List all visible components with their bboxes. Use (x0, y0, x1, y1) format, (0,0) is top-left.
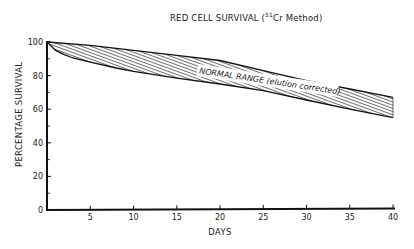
x-tick-label: 30 (301, 213, 311, 222)
x-tick-label: 20 (215, 213, 225, 222)
normal-range-band (47, 42, 393, 118)
y-tick-label: 40 (33, 139, 43, 148)
x-tick-label: 25 (258, 213, 268, 222)
y-tick-label: 0 (38, 206, 43, 215)
x-tick-label: 15 (172, 213, 182, 222)
x-tick-label: 5 (88, 213, 93, 222)
x-tick-label: 40 (388, 213, 398, 222)
y-tick-label: 20 (33, 172, 43, 181)
y-tick-label: 100 (28, 38, 43, 47)
x-axis-title: DAYS (208, 227, 231, 237)
normal-range-fill (47, 42, 393, 118)
x-tick-label: 35 (345, 213, 355, 222)
y-axis-title: PERCENTAGE SURVIVAL (14, 62, 24, 167)
y-tick-label: 60 (33, 105, 43, 114)
chart-title: RED CELL SURVIVAL (51Cr Method) (170, 11, 322, 23)
x-tick-label: 10 (128, 213, 138, 222)
y-tick-label: 80 (33, 72, 43, 81)
red-cell-survival-chart: RED CELL SURVIVAL (51Cr Method) 02040608… (0, 0, 414, 249)
x-axis-ticks: 510152025303540 (88, 205, 398, 222)
